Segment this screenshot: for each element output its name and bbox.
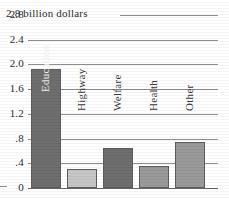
y-axis-tick-label: .4 [0,157,24,168]
bar-label-other: Other [184,84,195,111]
y-gridline [120,15,218,16]
y-gridline [28,40,218,41]
y-axis-tick-label: 2.0 [0,58,24,69]
bar-health [139,166,169,188]
y-axis-tick-label: 0 [0,182,24,193]
bar-chart: 2.82.42.01.61.2.8.40 2.8 billion dollars… [0,0,229,198]
y-axis-unit-note: 2.8 billion dollars [6,8,88,19]
bar-other [175,142,205,188]
y-axis-tick-label: 2.4 [0,34,24,45]
y-axis-tick-label: 1.2 [0,108,24,119]
bar-label-education: Education [40,44,51,91]
bar-label-highway: Highway [76,69,87,111]
origin-tick-mark [0,186,7,187]
bar-label-welfare: Welfare [112,74,123,111]
bar-highway [67,169,97,188]
y-axis-tick-label: .8 [0,133,24,144]
y-gridline [28,64,218,65]
bar-welfare [103,148,133,188]
x-axis-baseline [28,188,218,189]
y-axis-tick-label: 1.6 [0,83,24,94]
bar-label-health: Health [148,80,159,111]
